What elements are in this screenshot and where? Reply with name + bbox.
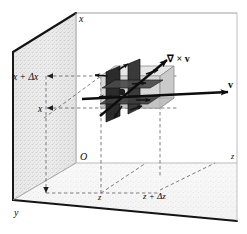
label-x-lower: x bbox=[37, 104, 43, 114]
label-x-upper: x + Δx bbox=[12, 72, 39, 82]
paddle-arrow-2 bbox=[95, 75, 108, 76]
label-z-lower: z bbox=[97, 192, 102, 202]
velocity-vector-label: v bbox=[228, 79, 233, 90]
curl-vector-label: ∇ × v bbox=[166, 53, 190, 64]
curl-diagram-figure: x y z O x + Δx x z z + Δz ∇ × v v bbox=[0, 0, 247, 234]
axis-label-y: y bbox=[13, 207, 19, 218]
origin-label: O bbox=[80, 151, 87, 162]
axis-label-x: x bbox=[78, 13, 84, 24]
label-z-upper: z + Δz bbox=[142, 191, 166, 201]
figure-canvas: x y z O x + Δx x z z + Δz ∇ × v v bbox=[0, 0, 247, 234]
